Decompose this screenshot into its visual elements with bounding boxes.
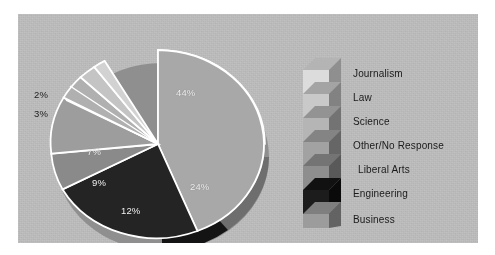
pie-label-44: 44%: [176, 87, 195, 98]
chart-legend: Journalism Law Science Other/No Response…: [295, 32, 478, 232]
chart-panel: 44% 24% 12% 9% 7% 3% 2%: [18, 14, 478, 243]
legend-label-journalism: Journalism: [353, 68, 403, 79]
pie-label-7: 7%: [87, 146, 101, 157]
legend-item-law[interactable]: Law: [353, 90, 372, 104]
legend-label-science: Science: [353, 116, 390, 127]
pie-label-24: 24%: [190, 181, 209, 192]
legend-item-journalism[interactable]: Journalism: [353, 66, 403, 80]
pie-chart: 44% 24% 12% 9% 7% 3% 2%: [18, 14, 308, 243]
pie-label-12: 12%: [121, 205, 140, 216]
pie-label-9: 9%: [92, 177, 106, 188]
legend-item-business[interactable]: Business: [353, 212, 395, 226]
legend-item-science[interactable]: Science: [353, 114, 390, 128]
pie-label-3: 3%: [34, 108, 48, 119]
pie-slices: [51, 50, 265, 239]
legend-label-business: Business: [353, 214, 395, 225]
legend-item-liberal-arts[interactable]: Liberal Arts: [353, 162, 410, 176]
legend-label-law: Law: [353, 92, 372, 103]
legend-label-engineering: Engineering: [353, 188, 408, 199]
pie-chart-svg: [18, 14, 308, 243]
legend-label-other-no-response: Other/No Response: [353, 140, 444, 151]
pie-label-2: 2%: [34, 89, 48, 100]
legend-item-engineering[interactable]: Engineering: [353, 186, 408, 200]
legend-cube-stack: [295, 32, 357, 228]
legend-item-other-no-response[interactable]: Other/No Response: [353, 138, 444, 152]
legend-label-liberal-arts: Liberal Arts: [353, 164, 410, 175]
